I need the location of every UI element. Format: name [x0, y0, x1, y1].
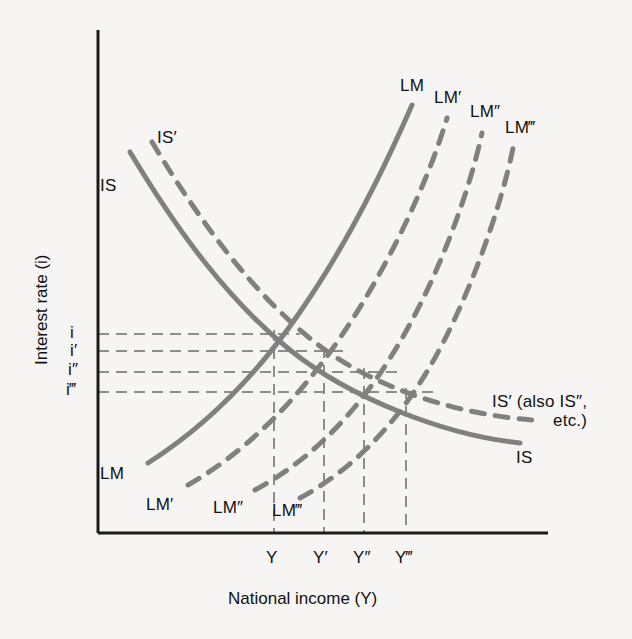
- is-note-line1: IS′ (also IS″,: [492, 392, 587, 411]
- x-tick-label-Y-prime: Y′: [313, 548, 328, 568]
- curve-label-LM-double-prime-bottom: LM″: [213, 498, 243, 518]
- curve-label-IS-prime-upper-left: IS′: [157, 128, 177, 148]
- x-tick-label-Y-double-prime: Y″: [353, 548, 371, 568]
- curve-label-LM-triple-prime-bottom: LM‴: [272, 501, 302, 521]
- curve-IS: [130, 152, 520, 443]
- is-lm-chart: [0, 0, 632, 639]
- curve-label-LM-bottom: LM: [100, 464, 124, 484]
- curve-label-IS-upper-left: IS: [100, 176, 116, 196]
- is-note-line2: etc.): [492, 411, 587, 430]
- x-tick-label-Y-triple-prime: Y‴: [395, 548, 413, 568]
- curve-LM-prime: [188, 118, 447, 485]
- x-tick-label-Y: Y: [266, 548, 278, 568]
- y-axis-title: Interest rate (i): [32, 254, 52, 365]
- y-tick-label-i-double-prime: i″: [68, 360, 78, 380]
- curve-label-LM-top: LM: [400, 76, 424, 96]
- curve-label-LM-prime-top: LM′: [434, 88, 461, 108]
- x-axis-title: National income (Y): [228, 589, 377, 609]
- y-tick-label-i: i: [70, 323, 74, 343]
- curve-label-LM-prime-bottom: LM′: [146, 495, 173, 515]
- lm-curves: [148, 105, 513, 498]
- y-tick-label-i-prime: i′: [70, 341, 77, 361]
- curve-IS-prime: [152, 142, 533, 420]
- curve-LM-double-prime: [255, 133, 482, 490]
- figure-canvas: Interest rate (i) National income (Y) i …: [0, 0, 632, 639]
- y-tick-label-i-triple-prime: i‴: [66, 380, 76, 400]
- curve-label-LM-double-prime-top: LM″: [470, 102, 500, 122]
- is-curves: [130, 142, 533, 443]
- curve-label-LM-triple-prime-top: LM‴: [505, 118, 535, 138]
- curve-label-IS-prime-note: IS′ (also IS″, etc.): [492, 392, 587, 430]
- curve-label-IS-right: IS: [516, 448, 532, 468]
